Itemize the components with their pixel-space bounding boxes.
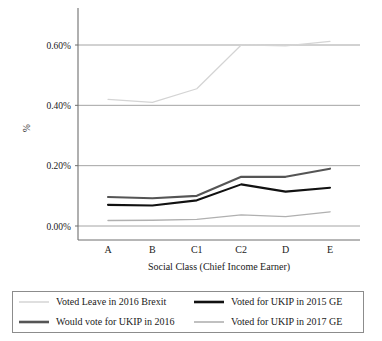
legend-label-would-vote-ukip-2016: Would vote for UKIP in 2016 [56,317,175,327]
chart-legend: Voted Leave in 2016 Brexit Voted for UKI… [12,291,364,333]
legend-line-swatch-icon [194,297,224,307]
series-line [108,212,330,221]
y-tick-label: 0.20% [46,161,71,171]
y-tick-label: 0.40% [46,101,71,111]
y-tick-labels-group: 0.00%0.20%0.40%0.60% [46,41,78,232]
chart-plot-area: 0.00%0.20%0.40%0.60% ABC1C2DE Social Cla… [0,0,382,285]
y-axis-title: % [22,124,32,132]
line-chart-svg: 0.00%0.20%0.40%0.60% ABC1C2DE Social Cla… [0,0,382,285]
x-tick-label: A [104,244,112,255]
x-tick-label: E [327,244,333,255]
legend-label-voted-ukip-2015-ge: Voted for UKIP in 2015 GE [231,297,342,307]
legend-item-voted-leave-2016-brexit[interactable]: Voted Leave in 2016 Brexit [13,292,188,312]
series-line [108,184,330,205]
legend-grid: Voted Leave in 2016 Brexit Voted for UKI… [13,292,363,332]
y-tick-label: 0.60% [46,41,71,51]
legend-label-voted-leave-2016-brexit: Voted Leave in 2016 Brexit [56,297,166,307]
x-tick-label: D [282,244,289,255]
legend-line-swatch-icon [19,317,49,327]
x-tick-label: C2 [235,244,247,255]
legend-item-voted-ukip-2017-ge[interactable]: Voted for UKIP in 2017 GE [188,312,363,332]
series-line [108,41,330,102]
data-series-group [108,41,330,220]
y-tick-label: 0.00% [46,222,71,232]
legend-line-swatch-icon [19,297,49,307]
gridlines-group [78,45,360,226]
figure-container: 0.00%0.20%0.40%0.60% ABC1C2DE Social Cla… [0,0,382,341]
series-line [108,169,330,199]
legend-item-would-vote-ukip-2016[interactable]: Would vote for UKIP in 2016 [13,312,188,332]
x-axis-title: Social Class (Chief Income Earner) [148,261,290,273]
x-tick-labels-group: ABC1C2DE [104,244,333,255]
legend-item-voted-ukip-2015-ge[interactable]: Voted for UKIP in 2015 GE [188,292,363,312]
legend-label-voted-ukip-2017-ge: Voted for UKIP in 2017 GE [231,317,342,327]
x-tick-label: C1 [191,244,203,255]
x-tick-label: B [149,244,156,255]
legend-line-swatch-icon [194,317,224,327]
